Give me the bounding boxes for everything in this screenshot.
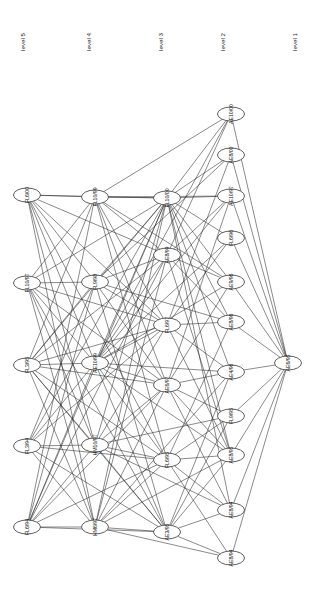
graph-node[interactable]: AE8/94 [218, 549, 245, 566]
node-label: FL9/98 [92, 274, 98, 290]
graph-node[interactable]: AE10/00 [218, 104, 245, 124]
node-label: HM10/97 [92, 434, 98, 455]
node-label: AE10/00 [228, 104, 234, 124]
graph-edge [180, 456, 217, 459]
level-label-level5: level 5 [19, 33, 26, 51]
graph-edge [100, 202, 226, 356]
graph-node[interactable]: AE8/00 [218, 146, 245, 163]
graph-node[interactable]: FL6/94 [14, 519, 41, 535]
graph-edge [174, 466, 223, 504]
graph-edge [234, 245, 285, 356]
node-label: FL10/99 [92, 187, 98, 206]
graph-node[interactable]: AE6/97 [154, 376, 181, 393]
node-label: FL6/94 [24, 519, 30, 535]
node-label: AE8/00 [228, 146, 234, 163]
graph-node[interactable]: FL6/00 [14, 187, 41, 203]
node-label: AE10/97 [228, 186, 234, 206]
graph-edge [29, 202, 93, 438]
graph-edge [180, 323, 217, 325]
figure-canvas: AE6/95AE10/00AE8/00AE10/97FL6/96AE9/96AE… [0, 0, 315, 610]
graph-edge [107, 419, 218, 443]
graph-node[interactable]: AE10/99 [82, 353, 109, 373]
node-label: AE6/97 [164, 376, 170, 393]
graph-node[interactable]: AE4/96 [218, 363, 245, 380]
node-label: AE9/96 [228, 273, 234, 290]
node-label: AE8/99 [164, 246, 170, 263]
graph-node[interactable]: FL3/95 [14, 357, 41, 373]
graph-edge [100, 370, 162, 454]
graph-node[interactable]: AE8/95 [218, 446, 245, 463]
level-label-level1: level 1 [291, 33, 298, 51]
node-label: FL6/96 [228, 230, 234, 246]
graph-edge [178, 536, 221, 553]
graph-edge [36, 203, 158, 277]
graph-edge [178, 514, 220, 528]
node-label: FL10/00 [164, 188, 170, 207]
edge-layer [28, 119, 286, 555]
graph-edge [31, 290, 163, 526]
node-label: AE8/94 [228, 549, 234, 566]
node-label: AE4/96 [228, 363, 234, 380]
node-label: FL9/95 [228, 408, 234, 424]
node-label: FL3/95 [24, 357, 30, 373]
graph-edge [101, 378, 226, 520]
graph-edge [102, 466, 161, 521]
node-label: AE3/95 [164, 523, 170, 540]
level-label-level2: level 2 [219, 33, 226, 51]
graph-edge [100, 289, 163, 379]
graph-edge [40, 282, 81, 283]
node-label: AE10/99 [92, 353, 98, 373]
node-label: AE8/95 [228, 446, 234, 463]
graph-edge [98, 204, 165, 378]
graph-edge [177, 390, 221, 411]
graph-edge [170, 121, 228, 248]
graph-edge [171, 289, 227, 379]
graph-edge [233, 370, 286, 551]
level-label-level3: level 3 [157, 33, 164, 51]
graph-edge [244, 365, 275, 370]
graph-edge [104, 460, 221, 522]
graph-node[interactable]: FL10/99 [82, 187, 109, 206]
graph-node[interactable]: AE8/94 [218, 501, 245, 518]
node-label: FL3/94 [24, 438, 30, 454]
node-label: AE8/94 [228, 501, 234, 518]
node-label: FL6/97 [164, 317, 170, 333]
graph-node[interactable]: FL6/95 [154, 452, 181, 468]
graph-edge [175, 161, 223, 193]
graph-edge [34, 331, 160, 440]
node-label: FL6/00 [24, 187, 30, 203]
level-label-level4: level 4 [85, 33, 92, 51]
node-label: HM6/97 [92, 518, 98, 536]
level-label-layer: level 5level 4level 3level 2level 1 [19, 33, 298, 51]
graph-edge [104, 119, 223, 191]
graph-edge [172, 461, 225, 525]
node-label: AE6/95 [285, 354, 291, 371]
graph-edge [99, 262, 162, 357]
graph-node[interactable]: AE8/96 [218, 313, 245, 330]
node-label: AE8/96 [228, 313, 234, 330]
graph-edge [238, 369, 282, 410]
layered-graph: AE6/95AE10/00AE8/00AE10/97FL6/96AE9/96AE… [0, 0, 315, 610]
graph-edge [32, 203, 90, 276]
node-label: FL10/97 [24, 273, 30, 292]
graph-node[interactable]: AE6/95 [275, 354, 302, 371]
graph-edge [104, 287, 158, 319]
graph-node[interactable]: FL10/00 [154, 188, 181, 207]
node-label: FL6/95 [164, 452, 170, 468]
graph-node[interactable]: FL9/95 [218, 408, 245, 424]
graph-node[interactable]: HM10/97 [82, 434, 109, 455]
graph-node[interactable]: HM6/97 [82, 518, 109, 536]
